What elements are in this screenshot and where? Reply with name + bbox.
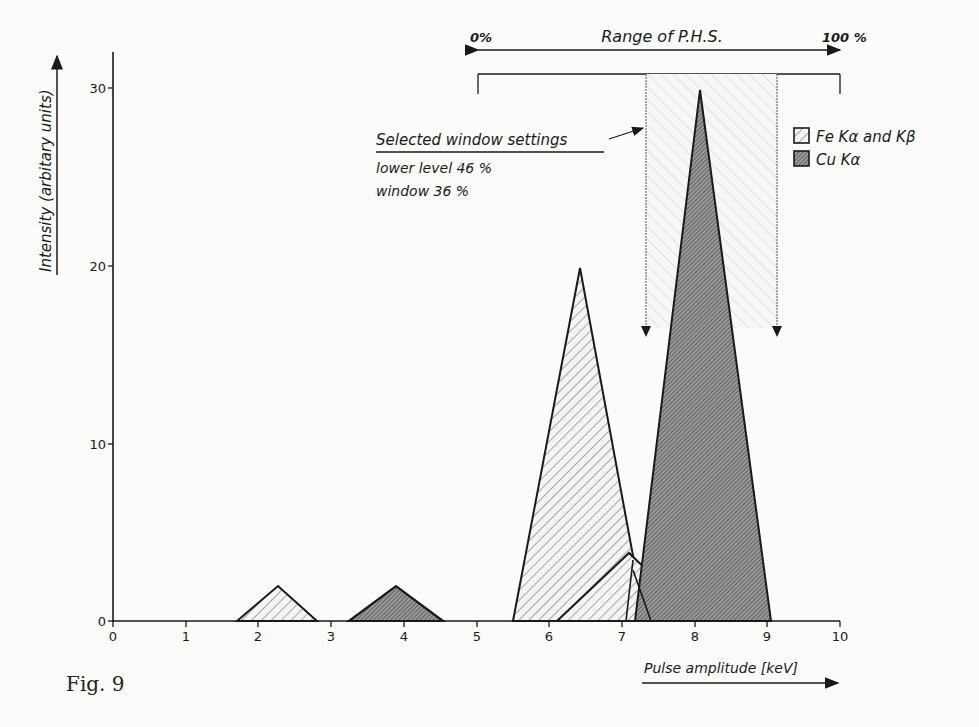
y-axis-label: Intensity (arbitary units) xyxy=(37,89,55,272)
peak-fe-escape xyxy=(237,586,317,621)
x-tick-0: 0 xyxy=(109,629,117,644)
x-tick-2: 2 xyxy=(254,629,262,644)
annotation-window: window 36 % xyxy=(376,183,469,199)
annotation-title: Selected window settings xyxy=(376,131,567,149)
y-tick-0: 0 xyxy=(98,614,106,629)
x-tick-8: 8 xyxy=(691,629,699,644)
legend-item-cu: Cu Kα xyxy=(794,151,861,169)
x-tick-1: 1 xyxy=(182,629,190,644)
x-tick-6: 6 xyxy=(545,629,553,644)
legend-label-fe: Fe Kα and Kβ xyxy=(816,128,916,146)
legend-item-fe: Fe Kα and Kβ xyxy=(794,128,916,146)
peak-cu-escape xyxy=(349,586,443,621)
phs-range-title: Range of P.H.S. xyxy=(601,27,723,46)
x-axis-label: Pulse amplitude [keV] xyxy=(644,660,798,676)
phs-range-right-label: 100 % xyxy=(822,30,867,45)
x-tick-10: 10 xyxy=(832,629,849,644)
phs-range-left-label: 0% xyxy=(470,30,492,45)
window-annotation: Selected window settings lower level 46 … xyxy=(376,128,643,199)
x-tick-3: 3 xyxy=(327,629,335,644)
y-tick-20: 20 xyxy=(89,259,106,274)
legend: Fe Kα and Kβ Cu Kα xyxy=(794,128,916,169)
y-tick-10: 10 xyxy=(89,437,106,452)
y-axis-label-group: Intensity (arbitary units) xyxy=(37,56,57,275)
x-tick-7: 7 xyxy=(618,629,626,644)
chart-canvas: 0% Range of P.H.S. 100 % 30 20 10 0 xyxy=(0,0,979,727)
legend-label-cu: Cu Kα xyxy=(816,151,861,169)
x-axis-label-group: Pulse amplitude [keV] xyxy=(642,660,838,683)
x-tick-4: 4 xyxy=(400,629,408,644)
y-axis: 30 20 10 0 xyxy=(89,52,113,629)
annotation-lower-level: lower level 46 % xyxy=(376,160,492,176)
x-tick-5: 5 xyxy=(473,629,481,644)
x-tick-9: 9 xyxy=(763,629,771,644)
x-axis: 0 1 2 3 4 5 6 7 8 9 10 xyxy=(109,621,848,644)
y-tick-30: 30 xyxy=(89,81,106,96)
figure-label: Fig. 9 xyxy=(66,672,125,696)
series-fe xyxy=(237,268,700,621)
